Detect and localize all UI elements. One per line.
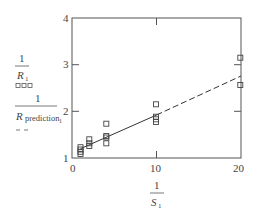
prediction-line xyxy=(81,76,242,149)
x-label-numerator: 1 xyxy=(154,179,160,191)
x-label-subscript: 1 xyxy=(158,202,162,210)
marker xyxy=(238,83,243,88)
data-markers xyxy=(78,55,243,156)
legend-2-denominator: R xyxy=(15,110,23,122)
legend-1-denominator: R xyxy=(16,69,24,81)
marker xyxy=(238,55,243,60)
y-tick-1: 1 xyxy=(63,152,69,164)
legend-1-subscript: 1 xyxy=(25,75,29,83)
x-tick-0: 0 xyxy=(70,162,76,174)
y-tick-2: 2 xyxy=(63,105,69,117)
legend-2-numerator: 1 xyxy=(35,92,41,104)
legend-1-numerator: 1 xyxy=(19,52,25,64)
y-tick-4: 4 xyxy=(63,12,69,24)
chart: 4 3 2 1 0 10 20 1 R 1 xyxy=(0,0,257,215)
legend-2-subscript: prediction xyxy=(25,113,60,123)
legend: 1 R 1 1 R prediction 1 xyxy=(15,52,62,130)
legend-2-subscript2: 1 xyxy=(59,118,62,124)
x-tick-20: 20 xyxy=(233,162,245,174)
y-tick-3: 3 xyxy=(63,58,69,70)
legend-1-marker-icon xyxy=(16,84,32,88)
marker xyxy=(104,141,109,146)
x-tick-10: 10 xyxy=(150,162,162,174)
marker xyxy=(104,121,109,126)
x-axis-label: 1 S 1 xyxy=(150,179,164,210)
x-label-denominator: S xyxy=(151,196,157,208)
marker xyxy=(154,102,159,107)
